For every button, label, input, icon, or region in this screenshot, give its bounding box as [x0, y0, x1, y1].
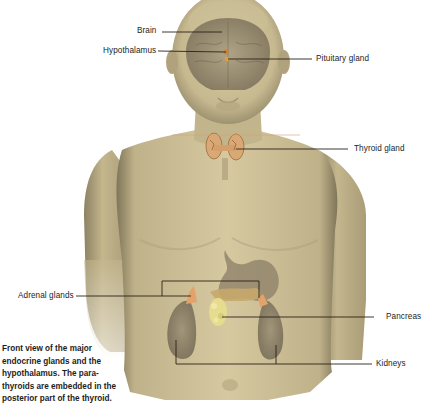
caption-line: posterior part of the thyroid. — [2, 392, 150, 405]
head — [166, 0, 290, 124]
caption-line: thyroids are embedded in the — [2, 380, 150, 393]
caption-line: Front view of the major — [2, 342, 150, 355]
label-adrenal-glands: Adrenal glands — [18, 289, 74, 300]
navel — [222, 379, 238, 391]
label-pituitary-gland: Pituitary gland — [316, 52, 369, 63]
label-kidneys: Kidneys — [376, 357, 406, 368]
caption-line: hypothalamus. The para- — [2, 367, 150, 380]
caption-line: endocrine glands and the — [2, 355, 150, 368]
label-brain: Brain — [137, 24, 157, 35]
label-hypothalamus: Hypothalamus — [103, 44, 156, 55]
label-thyroid-gland: Thyroid gland — [354, 142, 405, 153]
figure-caption: Front view of the major endocrine glands… — [2, 342, 150, 405]
label-pancreas: Pancreas — [386, 310, 421, 321]
